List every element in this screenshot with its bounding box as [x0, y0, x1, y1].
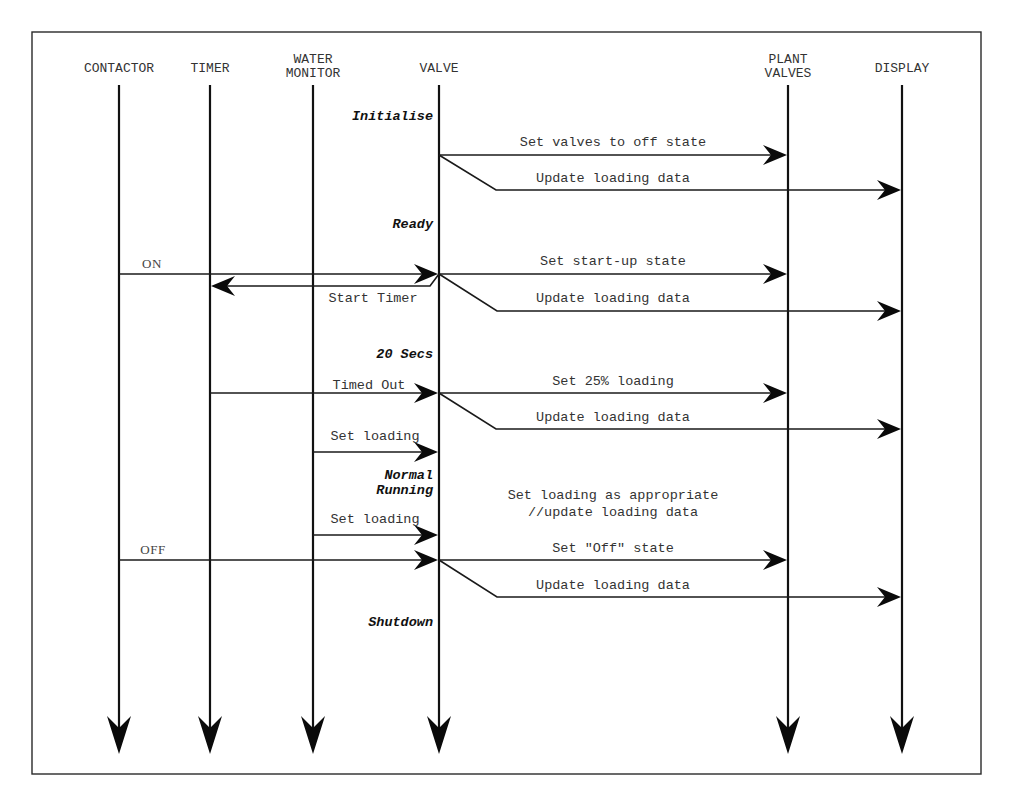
message-set-loading-2: Set loading: [313, 512, 438, 545]
lifeline-valve: [427, 85, 451, 754]
participant-headers: CONTACTORTIMERWATERMONITORVALVEPLANTVALV…: [84, 52, 930, 81]
participant-label-plant-valves: PLANT: [768, 52, 807, 67]
message-update-loading-3: Update loading data: [439, 393, 901, 439]
message-timed-out: Timed Out: [210, 378, 438, 403]
state-label-initialise: Initialise: [352, 109, 433, 124]
message-set-valves-off: Set valves to off state: [439, 135, 787, 165]
lifeline-contactor: [107, 85, 131, 754]
message-set-25-loading: Set 25% loading: [439, 374, 787, 403]
message-start-timer: Start Timer: [211, 274, 439, 306]
state-label-ready: Ready: [392, 217, 433, 232]
message-label: Timed Out: [333, 378, 406, 393]
state-label-shutdown: Shutdown: [368, 615, 433, 630]
note-normal-running-note: Set loading as appropriate: [508, 488, 719, 503]
message-label: Set loading: [330, 429, 419, 444]
state-label-normal-running: Running: [376, 483, 434, 498]
message-label: Set start-up state: [540, 254, 686, 269]
message-label: Update loading data: [536, 291, 690, 306]
notes: Set loading as appropriate//update loadi…: [508, 488, 719, 520]
note-normal-running-note: //update loading data: [528, 505, 698, 520]
message-label: Set loading: [330, 512, 419, 527]
lifeline-timer: [198, 85, 222, 754]
state-labels: InitialiseReady20 SecsNormalRunningShutd…: [352, 109, 434, 630]
message-set-off-state: Set "Off" state: [439, 541, 787, 570]
message-label: Update loading data: [536, 578, 690, 593]
sequence-diagram: CONTACTORTIMERWATERMONITORVALVEPLANTVALV…: [0, 0, 1011, 798]
participant-label-valve: VALVE: [419, 61, 458, 76]
message-label: Set 25% loading: [552, 374, 674, 389]
messages: Set valves to off stateUpdate loading da…: [119, 135, 901, 607]
message-label: Set valves to off state: [520, 135, 706, 150]
lifeline-display: [890, 85, 914, 754]
message-update-loading-4: Update loading data: [439, 560, 901, 607]
message-label: Update loading data: [536, 410, 690, 425]
participant-label-display: DISPLAY: [875, 61, 930, 76]
message-set-start-up: Set start-up state: [439, 254, 787, 284]
message-set-loading-1: Set loading: [313, 429, 438, 462]
participant-label-contactor: CONTACTOR: [84, 61, 154, 76]
message-update-loading-2: Update loading data: [439, 274, 901, 321]
message-on: ON: [119, 256, 438, 284]
lifelines: [107, 85, 914, 754]
message-label: OFF: [140, 542, 165, 557]
message-label: Set "Off" state: [552, 541, 674, 556]
state-label-normal-running: Normal: [384, 468, 433, 483]
message-label: ON: [142, 256, 162, 271]
message-line: [225, 274, 439, 286]
lifeline-water-monitor: [301, 85, 325, 754]
participant-label-plant-valves: VALVES: [765, 66, 812, 81]
participant-label-timer: TIMER: [190, 61, 229, 76]
message-label: Update loading data: [536, 171, 690, 186]
participant-label-water-monitor: WATER: [293, 52, 332, 67]
message-update-loading-1: Update loading data: [439, 155, 901, 200]
message-off: OFF: [119, 542, 438, 570]
participant-label-water-monitor: MONITOR: [286, 66, 341, 81]
lifeline-plant-valves: [776, 85, 800, 754]
diagram-frame: [32, 32, 981, 774]
message-label: Start Timer: [328, 291, 417, 306]
state-label-20-secs: 20 Secs: [376, 347, 433, 362]
